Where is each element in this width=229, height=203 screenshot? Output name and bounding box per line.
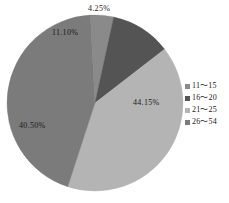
legend-swatch-icon bbox=[185, 84, 190, 89]
legend-label: 11〜15 bbox=[192, 82, 217, 90]
legend-item-26-54: 26〜54 bbox=[185, 118, 217, 126]
legend-label: 16〜20 bbox=[192, 94, 217, 102]
legend-item-21-25: 21〜25 bbox=[185, 106, 217, 114]
legend-swatch-icon bbox=[185, 96, 190, 101]
slice-label-11-15: 4.25% bbox=[88, 5, 110, 13]
legend-swatch-icon bbox=[185, 108, 190, 113]
legend-item-11-15: 11〜15 bbox=[185, 82, 217, 90]
slice-label-26-54: 44.15% bbox=[133, 99, 159, 107]
legend-swatch-icon bbox=[185, 120, 190, 125]
slice-label-16-20: 11.10% bbox=[52, 29, 78, 37]
legend-label: 21〜25 bbox=[192, 106, 217, 114]
legend-label: 26〜54 bbox=[192, 118, 217, 126]
legend-item-16-20: 16〜20 bbox=[185, 94, 217, 102]
pie-chart-figure: 4.25% 11.10% 40.50% 44.15% 11〜15 16〜20 2… bbox=[0, 0, 229, 203]
slice-label-21-25: 40.50% bbox=[19, 122, 45, 130]
chart-legend: 11〜15 16〜20 21〜25 26〜54 bbox=[185, 82, 217, 126]
